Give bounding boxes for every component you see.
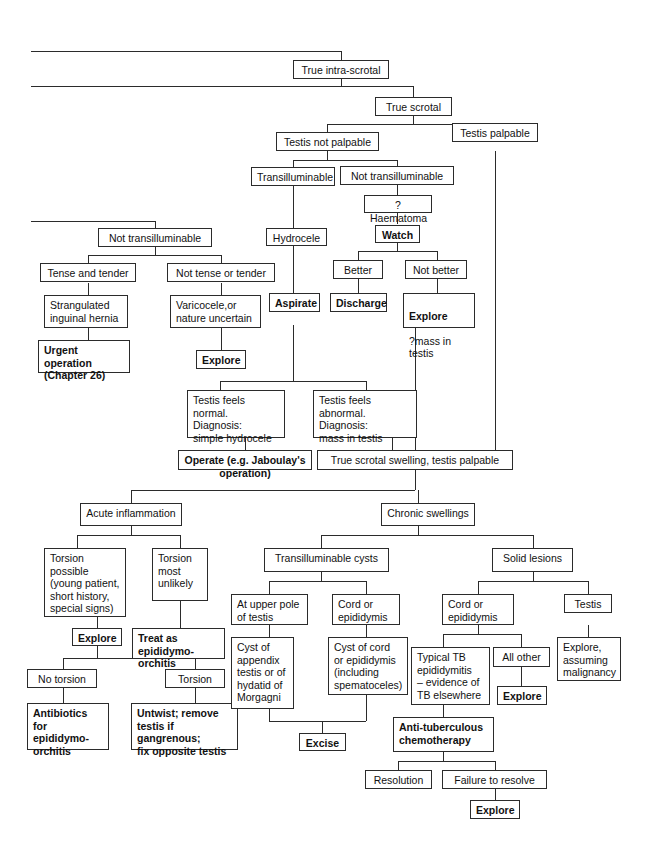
node-not-better[interactable]: Not better xyxy=(405,260,467,279)
node-anti-tuberculous[interactable]: Anti-tuberculous chemotherapy xyxy=(393,717,494,752)
node-all-other[interactable]: All other xyxy=(493,647,550,667)
node-chronic-swellings[interactable]: Chronic swellings xyxy=(381,503,475,526)
connector-to-not-better xyxy=(437,251,438,260)
node-untwist[interactable]: Untwist; remove testis if gangrenous; fi… xyxy=(131,703,238,750)
connector-to-no-torsion xyxy=(63,658,64,669)
connector-to-torsion xyxy=(195,658,196,669)
connector-to-cord-solid xyxy=(478,581,479,594)
node-resolution[interactable]: Resolution xyxy=(365,770,432,789)
connector-intrascrotal-to-scrotal xyxy=(341,86,413,87)
connector-tb-to-chemo xyxy=(443,705,444,717)
node-testis-solid[interactable]: Testis xyxy=(564,594,612,613)
node-torsion-most-unlikely[interactable]: Torsion most unlikely xyxy=(152,548,208,601)
connector-to-cysts xyxy=(321,535,322,548)
connector-cysts-down xyxy=(321,572,322,581)
node-torsion-possible[interactable]: Torsion possible (young patient, short h… xyxy=(44,548,126,617)
connector-cordcyst-to-cystcord xyxy=(366,625,367,637)
connector-to-resolution xyxy=(398,761,399,770)
node-explore-failure[interactable]: Explore xyxy=(470,800,520,819)
node-cyst-of-appendix[interactable]: Cyst of appendix testis or of hydatid of… xyxy=(231,637,294,709)
connector-top-rail-1 xyxy=(31,51,342,52)
node-transilluminable-cysts[interactable]: Transilluminable cysts xyxy=(264,548,389,572)
connector-lefttrans-split xyxy=(88,255,221,256)
connector-nottense-to-varicocele xyxy=(221,283,222,295)
node-discharge[interactable]: Discharge xyxy=(330,293,387,312)
node-testis-palpable[interactable]: Testis palpable xyxy=(452,123,538,142)
node-true-scrotal-swelling[interactable]: True scrotal swelling, testis palpable xyxy=(317,450,513,470)
connector-chronic-split xyxy=(321,535,533,536)
node-treat-as-epididymo-orchitis[interactable]: Treat as epididymo-orchitis xyxy=(132,628,225,659)
connector-chronic-down xyxy=(418,526,419,535)
node-aspirate[interactable]: Aspirate xyxy=(269,293,320,312)
connector-torsion-to-untwist xyxy=(195,688,196,703)
connector-aspirate-split xyxy=(220,381,366,382)
connector-transilluminable-to-hydrocele xyxy=(293,186,294,228)
node-varicocele[interactable]: Varicocele,or nature uncertain xyxy=(170,295,261,328)
node-haematoma[interactable]: ?Haematoma xyxy=(364,195,432,213)
node-explore-mass-in-testis[interactable]: Explore ?mass in testis xyxy=(403,293,475,328)
connector-to-chronic xyxy=(418,490,419,503)
connector-cordsolid-down xyxy=(478,625,479,634)
node-excise[interactable]: Excise xyxy=(299,733,346,751)
connector-to-typical-tb xyxy=(443,634,444,647)
node-not-tense-or-tender[interactable]: Not tense or tender xyxy=(167,263,275,282)
node-better[interactable]: Better xyxy=(333,260,383,279)
node-cord-or-epididymis-solid[interactable]: Cord or epididymis xyxy=(442,594,514,625)
node-true-scrotal[interactable]: True scrotal xyxy=(375,97,452,116)
connector-testissolid-to-explore xyxy=(588,625,589,637)
connector-to-solid xyxy=(533,535,534,548)
connector-lefttrans-down xyxy=(155,246,156,255)
node-urgent-operation[interactable]: Urgent operation (Chapter 26) xyxy=(38,340,130,373)
connector-to-acute xyxy=(131,490,132,503)
connector-hydrocele-to-aspirate xyxy=(293,246,294,293)
connector-acute-down xyxy=(131,526,132,535)
connector-to-torsion-possible xyxy=(77,535,78,548)
node-no-torsion[interactable]: No torsion xyxy=(27,669,97,688)
node-cyst-of-cord[interactable]: Cyst of cord or epididymis (including sp… xyxy=(328,637,408,695)
node-typical-tb[interactable]: Typical TB epididymitis – evidence of TB… xyxy=(411,647,490,705)
node-testis-feels-abnormal[interactable]: Testis feels abnormal. Diagnosis: mass i… xyxy=(313,390,417,438)
node-hydrocele[interactable]: Hydrocele xyxy=(266,228,327,246)
node-not-transilluminable-left[interactable]: Not transilluminable xyxy=(98,228,212,247)
node-torsion[interactable]: Torsion xyxy=(165,669,225,688)
node-testis-not-palpable[interactable]: Testis not palpable xyxy=(276,132,379,151)
node-antibiotics[interactable]: Antibiotics for epididymo- orchitis xyxy=(27,703,109,750)
connector-solid-split xyxy=(478,581,588,582)
connector-torsionpossible-to-explore xyxy=(97,617,98,628)
connector-upperpole-to-cyst xyxy=(269,625,270,637)
connector-testispalpable-drop xyxy=(495,151,496,453)
connector-to-better xyxy=(358,251,359,260)
connector-swelling-down xyxy=(415,470,416,490)
node-solid-lesions[interactable]: Solid lesions xyxy=(492,548,573,572)
node-failure-to-resolve[interactable]: Failure to resolve xyxy=(442,770,547,789)
connector-to-upper-pole xyxy=(269,581,270,594)
node-watch[interactable]: Watch xyxy=(375,225,420,243)
node-acute-inflammation[interactable]: Acute inflammation xyxy=(80,503,182,526)
connector-truescrotal-down xyxy=(413,115,414,124)
node-explore-torsion[interactable]: Explore xyxy=(72,628,122,646)
connector-better-to-discharge xyxy=(358,279,359,293)
node-transilluminable[interactable]: Transilluminable xyxy=(251,167,335,186)
node-explore-varicocele[interactable]: Explore xyxy=(196,350,246,369)
node-cord-or-epididymis-cyst[interactable]: Cord or epididymis xyxy=(332,594,400,625)
node-at-upper-pole[interactable]: At upper pole of testis xyxy=(231,594,308,625)
node-not-transilluminable-right[interactable]: Not transilluminable xyxy=(340,166,454,185)
node-explore-all-other[interactable]: Explore xyxy=(497,686,547,705)
node-explore-malignancy[interactable]: Explore, assuming malignancy xyxy=(557,637,621,681)
connector-to-testis-abnormal xyxy=(366,381,367,390)
connector-swelling-split xyxy=(131,490,415,491)
node-tense-and-tender[interactable]: Tense and tender xyxy=(40,263,136,282)
node-testis-feels-normal[interactable]: Testis feels normal. Diagnosis: simple h… xyxy=(187,390,285,438)
node-true-intra-scrotal[interactable]: True intra-scrotal xyxy=(293,60,389,79)
connector-to-testis-solid xyxy=(588,581,589,594)
connector-to-all-other xyxy=(521,634,522,647)
connector-top-rail-2 xyxy=(31,86,342,87)
connector-testisnotpalpable-down xyxy=(327,151,328,160)
connector-left-rail xyxy=(31,221,155,222)
node-strangulated-inguinal-hernia[interactable]: Strangulated inguinal hernia xyxy=(44,295,128,328)
node-operate-jaboulay[interactable]: Operate (e.g. Jaboulay's operation) xyxy=(178,450,312,470)
connector-hernia-to-urgent xyxy=(88,328,89,340)
connector-cordsolid-split xyxy=(443,634,521,635)
connector-explore-down xyxy=(97,646,98,658)
connector-allother-to-explore xyxy=(521,667,522,686)
